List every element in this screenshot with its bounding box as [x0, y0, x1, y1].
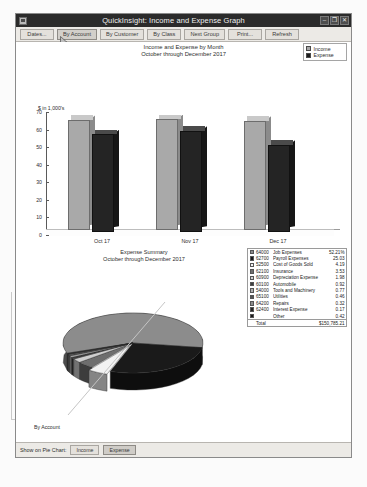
toolbar-button-by-class[interactable]: By Class: [147, 29, 181, 40]
account-name: Payroll Expenses: [273, 256, 325, 261]
bar-chart-title: Income and Expense by Month: [16, 44, 351, 51]
y-axis-tick-label: 30: [28, 179, 42, 185]
toolbar-button-refresh[interactable]: Refresh: [265, 29, 299, 40]
window-controls: – ❐ ✕: [320, 16, 349, 25]
toolbar-button-next-group[interactable]: Next Group: [184, 29, 225, 40]
y-axis-tick: [46, 112, 49, 113]
account-number: 60900: [256, 275, 273, 280]
account-number: 62100: [256, 269, 273, 274]
window-title: QuickInsight: Income and Expense Graph: [27, 16, 320, 25]
table-row[interactable]: 62400Interest Expense0.17: [248, 307, 346, 313]
x-axis-label: Nov 17: [170, 238, 210, 244]
account-percent: 0.92: [325, 282, 345, 287]
legend-swatch-income: [306, 46, 311, 51]
table-row[interactable]: 64000Job Expenses52.21%: [248, 249, 346, 255]
table-total-row: Total $150,785.21: [248, 319, 346, 326]
pie-chart-title: Expense Summary: [74, 249, 214, 256]
legend-swatch: [250, 256, 255, 261]
toolbar-button-dates[interactable]: Dates...: [20, 29, 54, 40]
account-number: 65100: [256, 294, 273, 299]
pie-chart-graphic: [46, 299, 221, 404]
account-name: Interest Expense: [273, 307, 325, 312]
pie-filter-expense-button[interactable]: Expense: [103, 445, 135, 455]
table-row[interactable]: 65100Utilities0.46: [248, 294, 346, 300]
table-row[interactable]: 52500Cost of Goods Sold4.19: [248, 262, 346, 268]
legend-swatch: [250, 263, 255, 268]
bar-income-dec-17: [244, 121, 266, 230]
title-bar: QuickInsight: Income and Expense Graph –…: [16, 14, 351, 27]
legend-swatch: [250, 276, 255, 281]
application-window: QuickInsight: Income and Expense Graph –…: [15, 13, 352, 458]
y-axis-tick-label: 40: [28, 162, 42, 168]
maximize-button[interactable]: ❐: [330, 16, 339, 25]
account-number: 62700: [256, 256, 273, 261]
y-axis-tick: [46, 235, 49, 236]
bar-chart-legend: Income Expense: [303, 43, 347, 61]
app-icon: [19, 17, 27, 25]
footer-bar: Show on Pie Chart: Income Expense: [16, 442, 351, 457]
pie-slice-side: [72, 357, 74, 376]
account-name: Tools and Machinery: [273, 288, 325, 293]
toolbar-button-by-account[interactable]: By Account: [57, 29, 97, 40]
account-percent: 4.19: [325, 262, 345, 267]
table-row[interactable]: 60900Depreciation Expense1.98: [248, 275, 346, 281]
y-axis-tick: [46, 182, 49, 183]
table-row[interactable]: 60100Automobile0.92: [248, 281, 346, 287]
pie-slice-side: [70, 356, 72, 374]
account-name: Cost of Goods Sold: [273, 262, 325, 267]
bar-expense-dec-17: [268, 145, 290, 232]
y-axis-tick-label: 60: [28, 127, 42, 133]
legend-swatch: [250, 288, 255, 293]
account-percent: 0.46: [325, 294, 345, 299]
account-number: 60100: [256, 282, 273, 287]
page-background: QuickInsight: Income and Expense Graph –…: [0, 0, 367, 487]
account-percent: 52.21%: [325, 250, 345, 255]
legend-swatch: [250, 295, 255, 300]
bar-income-nov-17: [156, 119, 178, 230]
toolbar: Dates...By AccountBy CustomerBy ClassNex…: [16, 27, 351, 42]
y-axis-tick: [46, 165, 49, 166]
minimize-button[interactable]: –: [320, 16, 329, 25]
account-name: Other: [273, 314, 325, 319]
total-value: $150,785.21: [319, 321, 345, 326]
table-row[interactable]: 54000Tools and Machinery0.77: [248, 287, 346, 293]
pie-chart-svg: [46, 299, 221, 404]
by-account-caption: By Account: [34, 424, 60, 430]
toolbar-button-print[interactable]: Print...: [228, 29, 262, 40]
table-row[interactable]: 64200Repairs0.32: [248, 300, 346, 306]
bar-income-oct-17: [68, 120, 90, 230]
pie-filter-income-button[interactable]: Income: [70, 445, 99, 455]
close-button[interactable]: ✕: [340, 16, 349, 25]
y-axis-tick-label: 70: [28, 109, 42, 115]
bar-expense-nov-17: [180, 131, 202, 232]
legend-swatch: [250, 269, 255, 274]
table-row[interactable]: 62100Insurance3.53: [248, 268, 346, 274]
account-number: 64200: [256, 301, 273, 306]
legend-swatch: [250, 250, 255, 255]
account-percent: 0.17: [325, 307, 345, 312]
toolbar-button-by-customer[interactable]: By Customer: [100, 29, 144, 40]
y-axis-tick-label: 20: [28, 197, 42, 203]
account-name: Job Expenses: [273, 250, 325, 255]
account-name: Automobile: [273, 282, 325, 287]
show-on-pie-chart-label: Show on Pie Chart:: [20, 447, 66, 453]
pie-chart-panel: Expense Summary October through December…: [16, 247, 351, 417]
legend-swatch: [250, 301, 255, 306]
account-percent: 1.98: [325, 275, 345, 280]
account-percent: 25.03: [325, 256, 345, 261]
y-axis-tick: [46, 200, 49, 201]
y-axis-tick: [46, 147, 49, 148]
bar-chart-subtitle: October through December 2017: [16, 51, 351, 58]
account-name: Depreciation Expense: [273, 275, 325, 280]
paper-edge: [11, 292, 12, 420]
total-label: Total: [250, 321, 319, 326]
account-number: 52500: [256, 262, 273, 267]
y-axis-tick: [46, 130, 49, 131]
bar-expense-oct-17: [92, 134, 114, 232]
bar-chart-panel: Income and Expense by Month October thro…: [16, 42, 351, 247]
y-axis-tick-label: 10: [28, 214, 42, 220]
account-name: Repairs: [273, 301, 325, 306]
table-row[interactable]: 62700Payroll Expenses25.03: [248, 255, 346, 261]
legend-swatch: [250, 314, 255, 319]
account-number: 54000: [256, 288, 273, 293]
